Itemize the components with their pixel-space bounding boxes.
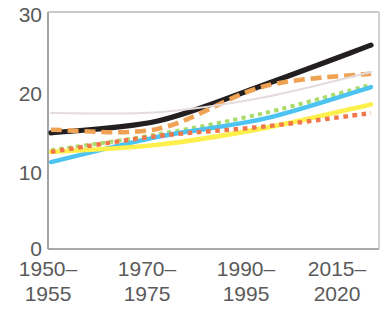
series-line-grey-faint	[51, 72, 371, 114]
plot-area	[0, 0, 383, 310]
series-line-black-solid	[51, 45, 371, 133]
chart-container: 30 20 10 0 1950– 1955 1970– 1975 1990– 1…	[0, 0, 383, 310]
series-line-red-dotted	[51, 113, 371, 152]
series-layer	[51, 45, 371, 162]
